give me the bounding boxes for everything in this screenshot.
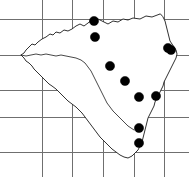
occurrence-dot-1 [89,16,98,25]
occurrence-dot-9 [134,138,143,147]
occurrence-dot-2 [90,32,99,41]
occurrence-dot-4 [105,61,114,70]
occurrence-dot-8 [134,123,143,132]
distribution-map-figure [0,0,189,177]
occurrence-dot-7 [151,91,160,100]
map-canvas [0,0,189,177]
occurrence-dot-6 [134,92,143,101]
occurrence-dot-10 [163,43,172,52]
occurrence-dot-5 [120,76,129,85]
